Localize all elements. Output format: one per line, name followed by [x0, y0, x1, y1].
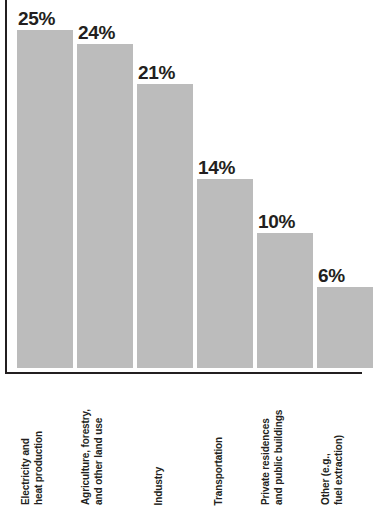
- bar-value-label-2: 21%: [138, 63, 175, 83]
- category-label-2: Industry: [137, 375, 193, 505]
- bar-group-1: 24%: [77, 0, 133, 373]
- category-label-1: Agriculture, forestry, and other land us…: [77, 375, 133, 505]
- bar-0[interactable]: [17, 30, 73, 368]
- category-label-4: Private residences and public buildings: [257, 375, 313, 505]
- category-label-1-line-2: and other land use: [93, 409, 106, 505]
- bar-2[interactable]: [137, 84, 193, 368]
- bar-value-label-3: 14%: [198, 158, 235, 178]
- bar-group-0: 25%: [17, 0, 73, 373]
- category-label-5: Other (e.g., fuel extraction): [317, 375, 373, 505]
- category-label-0-line-2: heat production: [33, 431, 46, 505]
- category-label-5-line-2: fuel extraction): [333, 435, 346, 505]
- bar-1[interactable]: [77, 44, 133, 368]
- category-label-3-line-1: Transportation: [213, 436, 226, 505]
- category-label-0: Electricity and heat production: [17, 375, 73, 505]
- category-label-0-line-1: Electricity and: [20, 431, 33, 505]
- bar-group-4: 10%: [257, 0, 313, 373]
- bar-3[interactable]: [197, 179, 253, 368]
- x-axis-line: [5, 372, 362, 374]
- plot-area: 25% 24% 21% 14% 10% 6%: [0, 0, 370, 373]
- bar-value-label-1: 24%: [78, 23, 115, 43]
- bar-value-label-4: 10%: [258, 212, 295, 232]
- category-label-2-line-1: Industry: [153, 466, 166, 505]
- category-label-3: Transportation: [197, 375, 253, 505]
- category-label-4-line-1: Private residences: [260, 410, 273, 505]
- bar-5[interactable]: [317, 287, 373, 368]
- category-labels: Electricity and heat production Agricult…: [0, 375, 370, 509]
- bar-value-label-0: 25%: [18, 9, 55, 29]
- category-label-5-line-1: Other (e.g.,: [320, 435, 333, 505]
- bar-group-2: 21%: [137, 0, 193, 373]
- category-label-1-line-1: Agriculture, forestry,: [80, 409, 93, 505]
- bar-4[interactable]: [257, 233, 313, 368]
- bar-group-3: 14%: [197, 0, 253, 373]
- category-label-4-line-2: and public buildings: [273, 410, 286, 505]
- bar-value-label-5: 6%: [318, 266, 345, 286]
- bar-group-5: 6%: [317, 0, 373, 373]
